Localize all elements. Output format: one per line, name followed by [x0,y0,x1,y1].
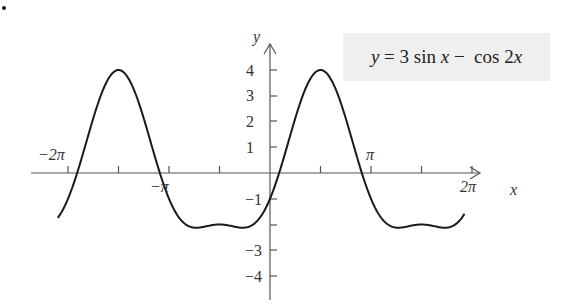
x-tick-label-neg-2pi: −2π [38,146,66,163]
y-tick-label: 3 [246,87,254,104]
y-tick-label: 2 [246,113,254,130]
y-tick-label: −3 [245,242,262,259]
y-tick-label: 4 [246,62,254,79]
chart-plot: y x 4 3 2 1 −1 −3 −4 −2π −π π 2π [0,0,565,305]
y-tick-label: −4 [245,268,262,285]
y-tick-label: 1 [246,139,254,156]
x-tick-label-2pi: 2π [460,178,477,195]
x-axis-label: x [509,181,517,198]
x-tick-label-neg-pi: −π [150,178,170,195]
y-tick-label: −1 [245,191,262,208]
x-tick-label-pi: π [366,146,375,163]
y-axis-label: y [251,28,261,46]
